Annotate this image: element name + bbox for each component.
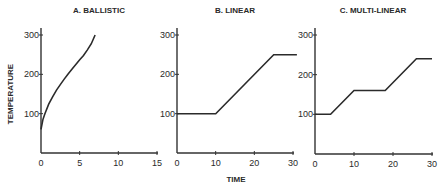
- y-axis-label: TEMPERATURE: [6, 63, 15, 124]
- y-tick-label: 100: [24, 109, 39, 119]
- y-tick-label: 200: [160, 69, 175, 79]
- panel-title: A. BALLISTIC: [73, 6, 125, 15]
- y-tick-label: 100: [160, 109, 175, 119]
- x-tick-label: 0: [312, 159, 317, 169]
- x-tick-label: 10: [349, 159, 359, 169]
- temperature-profile-charts: TEMPERATURE TIME A. BALLISTIC10020030005…: [0, 0, 441, 186]
- temperature-series-line: [41, 35, 95, 129]
- x-tick-label: 20: [388, 159, 398, 169]
- y-tick-label: 200: [24, 69, 39, 79]
- y-tick-label: 100: [298, 109, 313, 119]
- y-tick-label: 300: [24, 30, 39, 40]
- panel-2: B. LINEAR1002003000102030: [160, 6, 298, 168]
- x-tick-label: 30: [427, 159, 437, 169]
- temperature-series-line: [315, 59, 432, 115]
- x-tick-label: 0: [38, 158, 43, 168]
- x-tick-label: 10: [211, 158, 221, 168]
- y-tick-label: 300: [298, 30, 313, 40]
- panel-3: C. MULTI-LINEAR1002003000102030: [298, 6, 437, 169]
- panel-title: B. LINEAR: [215, 6, 255, 15]
- panel-title: C. MULTI-LINEAR: [340, 6, 407, 15]
- y-tick-label: 300: [160, 30, 175, 40]
- x-axis-label: TIME: [226, 175, 246, 184]
- x-tick-label: 20: [249, 158, 259, 168]
- x-tick-label: 0: [174, 158, 179, 168]
- x-tick-label: 10: [113, 158, 123, 168]
- x-tick-label: 30: [288, 158, 298, 168]
- x-tick-label: 5: [77, 158, 82, 168]
- panel-1: A. BALLISTIC100200300051015: [24, 6, 162, 168]
- temperature-series-line: [177, 55, 297, 114]
- x-tick-label: 15: [152, 158, 162, 168]
- y-tick-label: 200: [298, 70, 313, 80]
